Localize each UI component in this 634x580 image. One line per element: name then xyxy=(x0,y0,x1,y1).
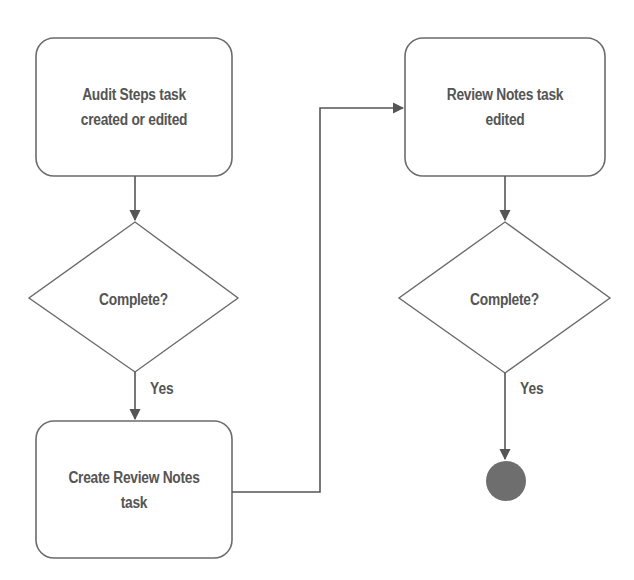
edge-create-to-review-edited xyxy=(232,108,403,492)
node-complete-2-label: Complete? xyxy=(414,284,595,314)
node-complete-2-text: Complete? xyxy=(470,287,539,312)
node-audit-steps-line2: created or edited xyxy=(81,107,188,132)
node-complete-1-label: Complete? xyxy=(44,284,224,314)
node-audit-steps-label: Audit Steps task created or edited xyxy=(50,38,219,176)
node-audit-steps-line1: Audit Steps task xyxy=(81,82,188,107)
node-review-notes-edited-line2: edited xyxy=(447,107,563,132)
node-end-circle xyxy=(486,461,526,501)
edge-complete2-yes-label: Yes xyxy=(520,380,544,398)
node-review-notes-edited-line1: Review Notes task xyxy=(447,82,563,107)
node-review-notes-edited-label: Review Notes task edited xyxy=(419,38,591,176)
node-create-review-notes-line2: task xyxy=(68,490,199,515)
node-create-review-notes-line1: Create Review Notes xyxy=(68,465,199,490)
node-create-review-notes-label: Create Review Notes task xyxy=(50,421,219,558)
node-complete-1-text: Complete? xyxy=(99,287,168,312)
edge-complete1-yes-label: Yes xyxy=(150,380,174,398)
